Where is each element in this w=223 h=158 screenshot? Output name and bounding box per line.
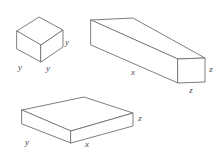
- figure-container: y y y x z z y x z: [0, 0, 223, 158]
- cube-front-right-y-label: y: [45, 63, 50, 73]
- cube-front-left-y-label: y: [17, 62, 22, 72]
- slab-length-x-label: x: [84, 139, 89, 149]
- geometry-figure: y y y x z z y x z: [0, 0, 223, 158]
- slab-height-z-label: z: [137, 113, 142, 123]
- prism-depth-z-label: z: [188, 85, 193, 95]
- prism-length-x-label: x: [130, 67, 135, 77]
- prism-end-face: [178, 58, 205, 83]
- slab-depth-y-label: y: [24, 137, 29, 147]
- solid-cube: [17, 17, 63, 62]
- solid-slab: [22, 97, 133, 143]
- prism-height-z-label: z: [208, 64, 213, 74]
- cube-right-y-label: y: [64, 37, 69, 47]
- solid-long-prism: [91, 18, 205, 83]
